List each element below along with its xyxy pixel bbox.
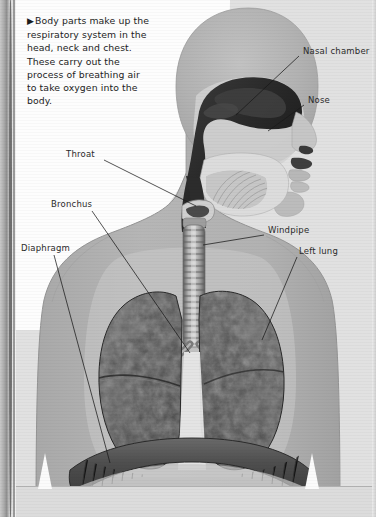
label-windpipe: Windpipe xyxy=(268,226,309,235)
plate-band xyxy=(0,486,376,517)
notch-marker-left xyxy=(38,453,52,489)
label-nose: Nose xyxy=(308,96,330,105)
label-bronchus: Bronchus xyxy=(51,200,92,209)
caption-block: ▶Body parts make up the respiratory syst… xyxy=(27,14,149,107)
label-nasal-chamber: Nasal chamber xyxy=(303,47,370,56)
page-right-edge xyxy=(372,0,376,517)
label-left-lung: Left lung xyxy=(299,247,338,256)
caption-bullet-icon: ▶ xyxy=(27,16,34,26)
label-throat: Throat xyxy=(66,150,95,159)
caption-text: Body parts make up the respiratory syste… xyxy=(27,15,149,106)
page-binding-edge xyxy=(9,0,12,517)
head-cross-section xyxy=(181,77,316,232)
scanned-page: Nasal chamber Nose Throat Bronchus Windp… xyxy=(0,0,376,517)
label-diaphragm: Diaphragm xyxy=(21,244,70,253)
page-binding-edge-secondary xyxy=(13,0,15,517)
notch-marker-right xyxy=(305,453,319,489)
